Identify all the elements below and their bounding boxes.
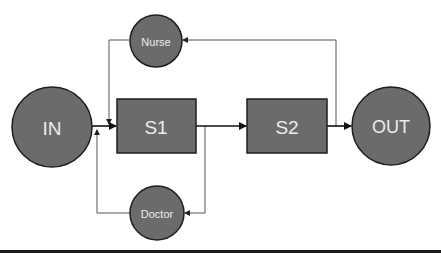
node-in[interactable]: IN: [12, 87, 92, 167]
flow-diagram: IN S1 S2 OUT Nurse Doctor: [0, 0, 441, 253]
node-doctor-label: Doctor: [141, 208, 174, 220]
node-nurse[interactable]: Nurse: [130, 15, 182, 67]
node-s1[interactable]: S1: [117, 99, 196, 153]
node-out-label: OUT: [372, 117, 410, 137]
node-s2[interactable]: S2: [247, 99, 327, 153]
node-nurse-label: Nurse: [141, 36, 170, 48]
node-s1-label: S1: [144, 117, 167, 138]
node-s2-label: S2: [275, 117, 298, 138]
node-in-label: IN: [43, 118, 62, 139]
node-out[interactable]: OUT: [352, 87, 430, 165]
node-doctor[interactable]: Doctor: [130, 186, 184, 240]
